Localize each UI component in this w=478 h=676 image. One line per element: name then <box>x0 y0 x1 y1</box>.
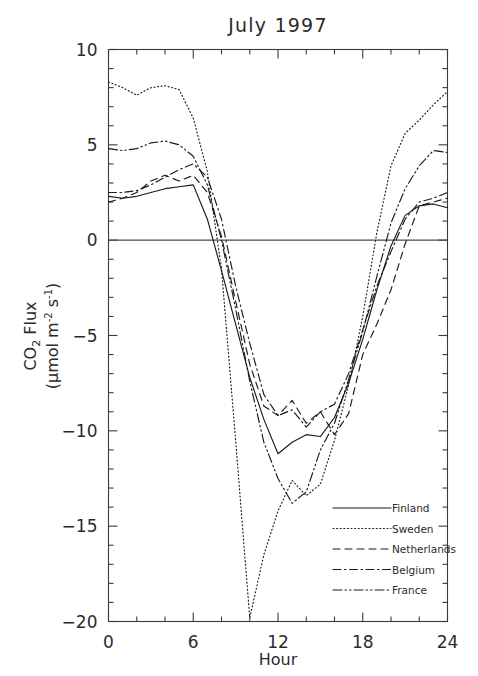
x-tick-label: 24 <box>437 632 459 652</box>
y-axis-label-line1: CO2 Flux <box>21 301 43 370</box>
x-tick-label: 0 <box>103 632 114 652</box>
y-axis-label-flux: Flux <box>21 301 40 339</box>
legend-label-sweden: Sweden <box>392 523 434 535</box>
y-tick-label: −15 <box>62 516 98 536</box>
x-tick-label: 6 <box>188 632 199 652</box>
y-axis-label-s: s <box>43 299 62 312</box>
y-tick-label: −20 <box>62 612 98 632</box>
y-tick-label: 10 <box>76 40 98 60</box>
chart-title: July 1997 <box>227 14 327 36</box>
x-tick-label: 18 <box>352 632 374 652</box>
chart-svg: July 1997 CO2 Flux (μmol m-2 s-1) Hour 1… <box>0 0 478 676</box>
legend-label-belgium: Belgium <box>392 564 435 576</box>
y-axis-label-co: CO <box>21 347 40 371</box>
y-tick-label: 5 <box>87 135 98 155</box>
y-axis-label-sub2: 2 <box>30 340 43 347</box>
legend-label-netherlands: Netherlands <box>392 543 456 555</box>
y-tick-label: 0 <box>87 230 98 250</box>
chart-figure: July 1997 CO2 Flux (μmol m-2 s-1) Hour 1… <box>0 0 478 676</box>
y-axis-label-sup-m2: -2 <box>43 312 54 322</box>
y-axis-label-umol: μmol m <box>43 322 62 383</box>
x-axis-label: Hour <box>259 650 298 669</box>
legend-label-france: France <box>392 584 427 596</box>
y-axis-label-sup-s1: -1 <box>43 289 54 299</box>
y-tick-label: −5 <box>72 326 97 346</box>
x-tick-label: 12 <box>267 632 289 652</box>
y-tick-label: −10 <box>62 421 98 441</box>
y-axis-label-paren-close: ) <box>43 283 62 289</box>
legend-label-finland: Finland <box>392 502 430 514</box>
